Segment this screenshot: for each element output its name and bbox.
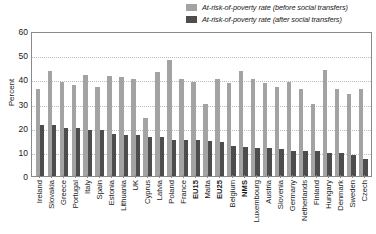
bar-after-transfers [136, 135, 140, 176]
x-axis-tickmark [364, 175, 365, 178]
bar-after-transfers [303, 151, 307, 176]
x-axis-tickmark [219, 175, 220, 178]
chart-legend: At-risk-of-poverty rate (before social t… [186, 2, 376, 26]
plot-area [31, 32, 372, 177]
x-axis-label-cell: Greece [57, 178, 69, 234]
bar-after-transfers [243, 147, 247, 176]
x-axis-tick-label: EU15 [191, 180, 200, 199]
x-axis-label-cell: France [177, 178, 189, 234]
x-axis-tick-label: Ireland [35, 180, 44, 203]
x-axis-tickmark [51, 175, 52, 178]
x-axis-tickmark [292, 175, 293, 178]
x-axis-label-cell: Spain [93, 178, 105, 234]
bar-group [154, 33, 166, 176]
bar-after-transfers [148, 137, 152, 176]
bar-after-transfers [315, 151, 319, 176]
x-axis-tick-label: Slovenia [275, 180, 284, 209]
bar-group [273, 33, 285, 176]
x-axis-tick-label: UK [131, 180, 140, 191]
bar-group [226, 33, 238, 176]
x-axis-tick-label: Latvia [155, 180, 164, 200]
bar-groups [32, 33, 371, 176]
x-axis-tickmark [352, 175, 353, 178]
x-axis-label-cell: Malta [201, 178, 213, 234]
x-axis-tick-label: Poland [167, 180, 176, 204]
bar-group [166, 33, 178, 176]
poverty-rate-bar-chart: At-risk-of-poverty rate (before social t… [0, 0, 376, 234]
bar-group [214, 33, 226, 176]
x-axis-tick-label: Greece [59, 180, 68, 205]
x-axis-tickmark [244, 175, 245, 178]
bar-after-transfers [255, 148, 259, 176]
bar-group [297, 33, 309, 176]
x-axis-label-cell: Belgium [226, 178, 238, 234]
x-axis-tickmark [75, 175, 76, 178]
x-axis-label-cell: Cyprus [141, 178, 153, 234]
x-axis-tickmark [135, 175, 136, 178]
x-axis-tick-label: Germany [287, 180, 296, 211]
x-axis-tick-label: Portugal [71, 180, 80, 208]
bar-group [237, 33, 249, 176]
bar-group [70, 33, 82, 176]
bar-after-transfers [52, 125, 56, 176]
legend-item-before: At-risk-of-poverty rate (before social t… [186, 2, 376, 13]
x-axis-label-cell: Poland [165, 178, 177, 234]
bar-after-transfers [279, 149, 283, 176]
x-axis-label-cell: Slovakia [45, 178, 57, 234]
x-axis-label-cell: Ireland [33, 178, 45, 234]
bar-group [34, 33, 46, 176]
x-axis-tickmark [256, 175, 257, 178]
bar-after-transfers [88, 130, 92, 176]
x-axis-tickmark [268, 175, 269, 178]
x-axis-tickmark [171, 175, 172, 178]
bar-after-transfers [160, 137, 164, 176]
y-axis-title: Percent [7, 63, 16, 123]
x-axis-tickmark [280, 175, 281, 178]
bar-after-transfers [100, 130, 104, 176]
legend-swatch-before [186, 4, 197, 11]
x-axis-tickmark [195, 175, 196, 178]
x-axis-label-cell: Luxembourg [250, 178, 262, 234]
x-axis-label-cell: EU15 [189, 178, 201, 234]
y-axis-tick-label: 0 [23, 172, 28, 182]
x-axis-label-cell: Hungary [322, 178, 334, 234]
bar-after-transfers [64, 128, 68, 176]
bar-group [345, 33, 357, 176]
x-axis-labels: IrelandSlovakiaGreecePortugalItalySpainE… [31, 178, 372, 234]
x-axis-tick-label: Estonia [107, 180, 116, 205]
x-axis-tick-label: Netherlands [299, 180, 308, 221]
bar-group [118, 33, 130, 176]
legend-label-before: At-risk-of-poverty rate (before social t… [202, 3, 348, 12]
x-axis-label-cell: UK [129, 178, 141, 234]
x-axis-tickmark [39, 175, 40, 178]
x-axis-label-cell: Sweden [346, 178, 358, 234]
x-axis-tickmark [123, 175, 124, 178]
x-axis-tickmark [304, 175, 305, 178]
bar-group [142, 33, 154, 176]
x-axis-tick-label: Cyprus [143, 180, 152, 204]
x-axis-tick-label: Lithuania [119, 180, 128, 211]
bar-group [321, 33, 333, 176]
bar-group [357, 33, 369, 176]
x-axis-label-cell: Denmark [334, 178, 346, 234]
bar-group [106, 33, 118, 176]
bar-after-transfers [184, 140, 188, 176]
x-axis-label-cell: Czech [358, 178, 370, 234]
x-axis-tick-label: Finland [311, 180, 320, 205]
bar-after-transfers [220, 142, 224, 176]
bar-after-transfers [231, 146, 235, 176]
x-axis-tick-label: Hungary [323, 180, 332, 209]
bar-group [46, 33, 58, 176]
x-axis-label-cell: Italy [81, 178, 93, 234]
y-axis-tick-label: 10 [19, 148, 28, 158]
y-axis-tick-label: 40 [19, 75, 28, 85]
x-axis-label-cell: Netherlands [298, 178, 310, 234]
bar-after-transfers [196, 140, 200, 176]
x-axis-tickmark [232, 175, 233, 178]
x-axis-label-cell: Germany [286, 178, 298, 234]
x-axis-label-cell: Latvia [153, 178, 165, 234]
x-axis-tick-label: Italy [83, 180, 92, 194]
x-axis-label-cell: Lithuania [117, 178, 129, 234]
bar-after-transfers [339, 153, 343, 176]
bar-after-transfers [208, 141, 212, 176]
